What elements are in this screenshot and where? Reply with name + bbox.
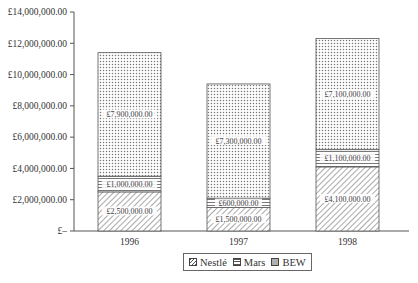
y-tick-label: £4,000,000.00 bbox=[12, 164, 67, 174]
legend-item-nestl: Nestlé bbox=[189, 257, 227, 268]
y-tick-label: £– bbox=[58, 226, 68, 236]
y-tick-label: £10,000,000.00 bbox=[8, 70, 68, 80]
y-tick-label: £8,000,000.00 bbox=[12, 101, 67, 111]
y-tick-label: £2,000,000.00 bbox=[12, 195, 67, 205]
data-label: £4,100,000.00 bbox=[325, 195, 371, 204]
legend-item-mars: Mars bbox=[233, 257, 266, 268]
legend: NestléMarsBEW bbox=[183, 253, 312, 271]
legend-swatch-icon bbox=[233, 258, 241, 266]
data-label: £1,500,000.00 bbox=[216, 215, 262, 224]
bars: £2,500,000.00£1,000,000.00£7,900,000.00£… bbox=[98, 39, 379, 231]
data-label: £7,100,000.00 bbox=[325, 90, 371, 99]
data-label: £7,300,000.00 bbox=[216, 137, 262, 146]
stacked-bar-chart: £–£2,000,000.00£4,000,000.00£6,000,000.0… bbox=[0, 0, 418, 283]
x-tick-label: 1996 bbox=[120, 237, 139, 247]
legend-label: BEW bbox=[282, 257, 305, 268]
y-tick-label: £14,000,000.00 bbox=[8, 7, 68, 17]
legend-label: Nestlé bbox=[200, 257, 227, 268]
data-label: £1,100,000.00 bbox=[325, 154, 371, 163]
legend-swatch-icon bbox=[271, 258, 279, 266]
legend-swatch-icon bbox=[189, 258, 197, 266]
data-label: £600,000.00 bbox=[219, 199, 259, 208]
legend-item-bew: BEW bbox=[271, 257, 305, 268]
y-tick-label: £12,000,000.00 bbox=[8, 39, 68, 49]
x-tick-label: 1997 bbox=[229, 237, 248, 247]
legend-label: Mars bbox=[244, 257, 266, 268]
x-tick-label: 1998 bbox=[338, 237, 357, 247]
y-tick-label: £6,000,000.00 bbox=[12, 132, 67, 142]
data-label: £2,500,000.00 bbox=[107, 207, 153, 216]
data-label: £1,000,000.00 bbox=[107, 180, 153, 189]
data-label: £7,900,000.00 bbox=[107, 110, 153, 119]
